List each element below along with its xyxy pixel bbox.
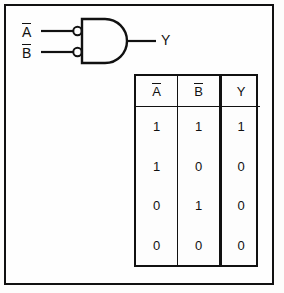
table-row: 1 1 1 [136,107,260,147]
output-label-y: Y [161,33,170,47]
cell-b: 1 [178,107,221,147]
column-header-a: A [136,76,178,107]
column-header-b-text: B [194,83,203,99]
logic-gate-figure: A B Y A B Y [0,0,284,293]
cell-b: 0 [178,147,221,186]
cell-a: 1 [136,147,178,186]
truth-table-grid: A B Y 1 1 1 1 0 [136,76,260,265]
table-row: 0 1 0 [136,186,260,225]
input-label-b-text: B [22,44,31,61]
cell-a: 1 [136,107,178,147]
input-label-b: B [22,44,31,61]
cell-b: 1 [178,186,221,225]
column-header-b: B [178,76,221,107]
cell-y: 0 [221,186,261,225]
cell-b: 0 [178,225,221,265]
truth-table: A B Y 1 1 1 1 0 [134,74,258,267]
input-bubble-b-icon [73,48,81,56]
cell-a: 0 [136,186,178,225]
table-row: 1 0 0 [136,147,260,186]
cell-y: 0 [221,147,261,186]
and-gate-body-icon [82,19,127,63]
cell-a: 0 [136,225,178,265]
output-label-y-text: Y [161,32,170,48]
truth-table-body: 1 1 1 1 0 0 0 1 0 0 0 0 [136,107,260,266]
input-label-a-text: A [22,23,31,40]
cell-y: 1 [221,107,261,147]
input-bubble-a-icon [73,27,81,35]
column-header-a-text: A [152,83,161,99]
column-header-y-text: Y [237,84,246,99]
truth-table-header: A B Y [136,76,260,107]
input-label-a: A [22,23,31,40]
truth-table-header-row: A B Y [136,76,260,107]
column-header-y: Y [221,76,261,107]
cell-y: 0 [221,225,261,265]
table-row: 0 0 0 [136,225,260,265]
